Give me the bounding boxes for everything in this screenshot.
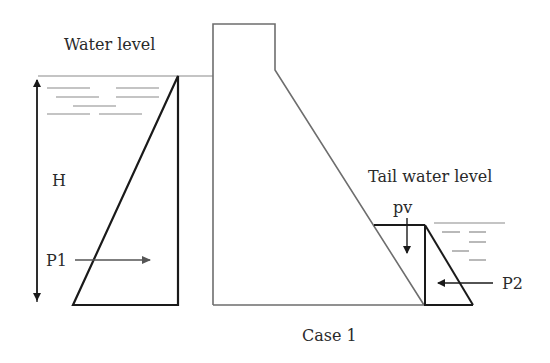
tail-pressure-slope	[425, 225, 473, 305]
dam-body	[213, 24, 424, 305]
p1-label: P1	[46, 251, 67, 270]
p2-label: P2	[502, 274, 523, 293]
dam-diagram: Water level H P1 Tail water level pv P2 …	[0, 0, 550, 363]
tail-water-ripples	[434, 223, 505, 260]
caption: Case 1	[302, 326, 357, 345]
pv-label: pv	[393, 198, 412, 217]
upstream-water-ripples	[47, 88, 159, 114]
head-label: H	[52, 171, 66, 190]
tail-water-level-label: Tail water level	[368, 167, 492, 186]
water-level-label: Water level	[64, 35, 155, 54]
upstream-pressure-triangle	[73, 76, 178, 305]
